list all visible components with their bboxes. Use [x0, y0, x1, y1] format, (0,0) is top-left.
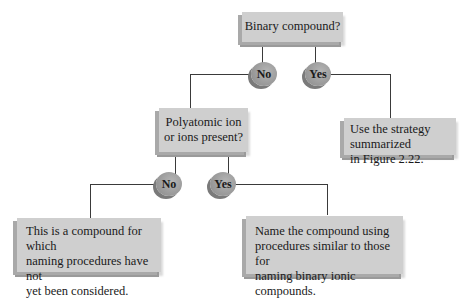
- decision-polyatomic-ion: Polyatomic ion or ions present?: [159, 108, 248, 152]
- answer-yes-oval: Yes: [305, 62, 331, 86]
- connector-q2-no-horizontal: [90, 184, 156, 185]
- decision-binary-compound-label: Binary compound?: [242, 19, 343, 34]
- connector-q2-yes: [228, 152, 229, 174]
- connector-q2-yes-down: [327, 184, 328, 215]
- answer-yes-oval-2: Yes: [210, 172, 236, 196]
- connector-no-down: [190, 74, 191, 108]
- result-not-considered-label: This is a compound for which naming proc…: [26, 224, 161, 299]
- answer-yes-label: Yes: [309, 67, 326, 81]
- decision-polyatomic-ion-label: Polyatomic ion or ions present?: [159, 115, 248, 145]
- connector-q1-no: [262, 42, 263, 64]
- answer-no-oval: No: [251, 62, 277, 86]
- result-name-ionic-label: Name the compound using procedures simil…: [255, 224, 403, 299]
- answer-yes-label-2: Yes: [214, 177, 231, 191]
- result-name-ionic: Name the compound using procedures simil…: [246, 216, 403, 274]
- answer-no-label: No: [257, 67, 272, 81]
- answer-no-label-2: No: [162, 177, 177, 191]
- connector-q1-yes: [315, 42, 316, 64]
- connector-q2-yes-horizontal: [234, 184, 328, 185]
- answer-no-oval-2: No: [156, 172, 182, 196]
- decision-binary-compound: Binary compound?: [242, 12, 343, 42]
- result-use-strategy-label: Use the strategy summarized in Figure 2.…: [350, 122, 456, 167]
- connector-yes-down: [390, 74, 391, 118]
- connector-no-horizontal: [190, 74, 250, 75]
- connector-q2-no: [175, 152, 176, 174]
- connector-q2-no-down: [90, 184, 91, 218]
- result-not-considered: This is a compound for which naming proc…: [17, 218, 161, 272]
- result-use-strategy: Use the strategy summarized in Figure 2.…: [344, 118, 456, 155]
- connector-yes-horizontal: [330, 74, 390, 75]
